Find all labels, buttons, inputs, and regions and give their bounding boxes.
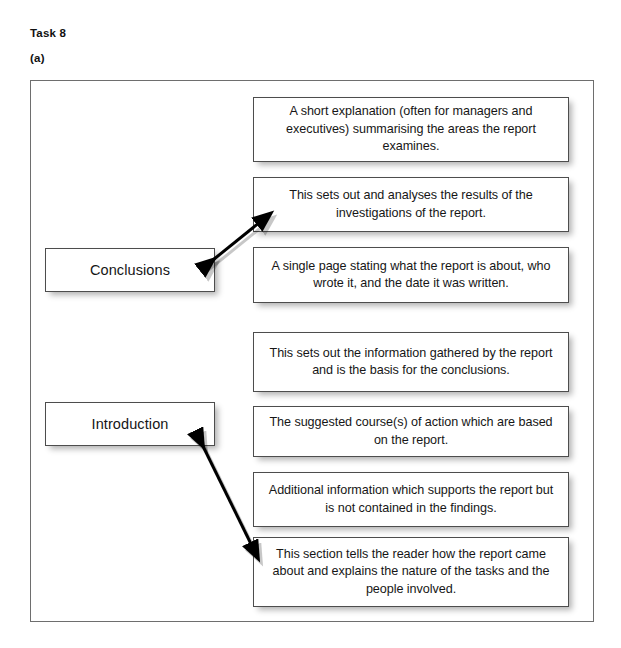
description-box-executive-summary[interactable]: A short explanation (often for managers … bbox=[253, 97, 569, 162]
worksheet-page: Task 8 (a) A short explanation (often fo… bbox=[0, 0, 621, 648]
description-box-findings[interactable]: This sets out the information gathered b… bbox=[253, 332, 569, 392]
description-text: A single page stating what the report is… bbox=[254, 258, 568, 293]
description-text: Additional information which supports th… bbox=[254, 482, 568, 517]
description-text: The suggested course(s) of action which … bbox=[254, 414, 568, 449]
description-text: This section tells the reader how the re… bbox=[254, 546, 568, 599]
description-text: This sets out the information gathered b… bbox=[254, 345, 568, 380]
label-box-introduction[interactable]: Introduction bbox=[45, 402, 215, 446]
description-text: This sets out and analyses the results o… bbox=[254, 187, 568, 222]
description-box-recommendations[interactable]: The suggested course(s) of action which … bbox=[253, 406, 569, 457]
task-heading: Task 8 bbox=[30, 27, 66, 39]
label-box-conclusions[interactable]: Conclusions bbox=[45, 248, 215, 292]
description-box-title-page[interactable]: A single page stating what the report is… bbox=[253, 247, 569, 303]
description-text: A short explanation (often for managers … bbox=[254, 103, 568, 156]
label-text: Conclusions bbox=[81, 261, 179, 279]
description-box-introduction[interactable]: This section tells the reader how the re… bbox=[253, 537, 569, 607]
description-box-conclusions[interactable]: This sets out and analyses the results o… bbox=[253, 177, 569, 232]
label-text: Introduction bbox=[83, 415, 178, 433]
description-box-appendices[interactable]: Additional information which supports th… bbox=[253, 472, 569, 527]
part-label: (a) bbox=[30, 52, 45, 64]
